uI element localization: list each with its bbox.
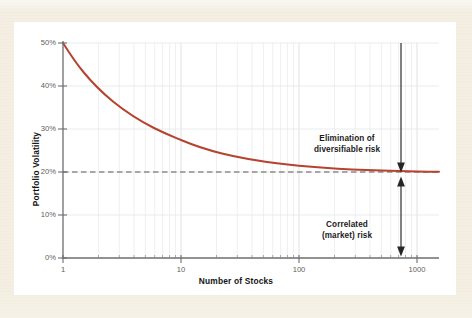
x-axis-title: Number of Stocks: [0, 276, 472, 286]
x-axis-ticks: [63, 255, 417, 263]
annotation-correlated-market-risk: Correlated (market) risk: [286, 220, 408, 241]
y-axis-title: Portfolio Volatility: [31, 119, 41, 219]
plot-canvas: [14, 22, 456, 295]
annotation-elimination-line-2: diversifiable risk: [314, 145, 380, 154]
x-tick-label-1000: 1000: [397, 265, 437, 274]
x-tick-label-100: 100: [279, 265, 319, 274]
annotation-correlated-line-2: (market) risk: [322, 231, 372, 240]
y-tick-label-50: 50%: [30, 38, 56, 47]
annotation-elimination-line-1: Elimination of: [319, 134, 374, 143]
x-tick-label-1: 1: [43, 265, 83, 274]
x-tick-label-10: 10: [161, 265, 201, 274]
annotation-elimination-diversifiable-risk: Elimination of diversifiable risk: [286, 134, 408, 155]
chart-panel: Elimination of diversifiable risk Correl…: [14, 22, 456, 295]
y-tick-label-0: 0%: [30, 253, 56, 262]
y-tick-label-40: 40%: [30, 81, 56, 90]
annotation-correlated-line-1: Correlated: [326, 220, 368, 229]
figure-mat: Elimination of diversifiable risk Correl…: [0, 0, 472, 318]
